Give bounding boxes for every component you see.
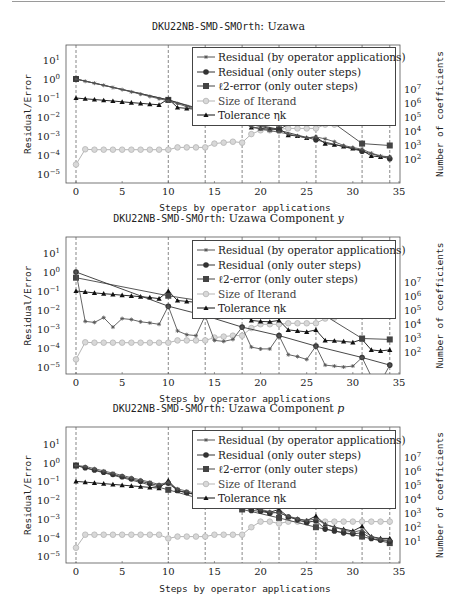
circle-marker [267,519,273,525]
circle-marker [322,526,328,532]
y2-tick-label: 101 [404,535,421,547]
circle-marker [92,532,98,538]
circle-marker [203,452,209,458]
circle-marker [101,532,107,538]
star-marker [204,438,208,442]
circle-marker [230,532,236,538]
star-marker [268,510,272,514]
y2-tick-label: 104 [404,493,422,505]
circle-marker [73,545,79,551]
y2-axis-label: Number of coefficients [434,432,445,558]
legend-label: Size of Iterand [218,478,297,490]
circle-marker [212,532,218,538]
star-marker [148,480,152,484]
legend-symbol-icon [197,435,215,445]
circle-marker [129,532,135,538]
triangle-marker [359,524,364,529]
legend-entry: Tolerance ηk [197,491,391,506]
y-tick-label: 10−5 [37,550,60,562]
y2-tick-label: 102 [404,521,421,533]
chart-3: DKU22NB-SMD-SMOrth: Uzawa Component p051… [0,0,457,600]
x-tick-label: 5 [119,566,125,577]
square-marker [203,466,209,472]
circle-marker [341,519,347,525]
circle-marker [239,532,245,538]
circle-marker [202,534,208,540]
star-marker [369,535,373,539]
x-tick-label: 30 [346,566,359,577]
star-marker [277,511,281,515]
legend-label: Residual (by operator applications) [218,434,406,446]
x-tick-label: 0 [73,566,79,577]
x-axis-label: Steps by operator applications [159,583,331,594]
x-tick-label: 20 [254,566,267,577]
square-marker [165,487,171,493]
legend-label: ℓ2-error (only outer steps) [218,463,358,475]
y2-tick-label: 105 [404,479,421,491]
legend-entry: Size of Iterand [197,477,391,492]
star-marker [92,467,96,471]
legend-entry: Residual (by operator applications) [197,433,391,448]
circle-marker [359,519,365,525]
square-marker [313,524,319,530]
star-marker [157,482,161,486]
circle-marker [184,534,190,540]
y-tick-label: 101 [43,438,60,450]
y-axis-label: Residual/Error [22,455,33,535]
legend-entry: Residual (only outer steps) [197,448,391,463]
y2-tick-label: 107 [404,451,421,463]
circle-marker [82,532,88,538]
y-tick-label: 10−4 [37,532,61,544]
legend-symbol-icon [197,450,215,460]
legend-symbol-icon [197,464,215,474]
circle-marker [147,532,153,538]
y-tick-label: 10−3 [37,513,60,525]
star-marker [111,471,115,475]
circle-marker [221,532,227,538]
circle-marker [203,481,209,487]
legend: Residual (by operator applications)Resid… [192,430,396,509]
y-tick-label: 10−2 [37,494,60,506]
star-marker [166,480,170,484]
circle-marker [193,534,199,540]
x-tick-label: 15 [208,566,221,577]
star-marker [102,469,106,473]
x-tick-label: 35 [393,566,406,577]
circle-marker [332,519,338,525]
y-tick-label: 10−1 [37,475,60,487]
x-tick-label: 25 [300,566,313,577]
plot-svg: 0510152025303510110010−110−210−310−410−5… [0,0,457,600]
star-marker [139,478,143,482]
circle-marker [369,519,375,525]
star-marker [176,487,180,491]
circle-marker [276,521,282,527]
star-marker [129,476,133,480]
circle-marker [378,519,384,525]
circle-marker [387,519,393,525]
circle-marker [258,519,264,525]
circle-marker [175,534,181,540]
circle-marker [350,519,356,525]
circle-marker [156,532,162,538]
legend-entry: ℓ2-error (only outer steps) [197,462,391,477]
star-marker [185,489,189,493]
y2-tick-label: 106 [404,465,422,477]
circle-marker [249,524,255,530]
legend-symbol-icon [197,493,215,503]
x-tick-label: 10 [162,566,175,577]
star-marker [379,537,383,541]
circle-marker [110,532,116,538]
circle-marker [165,536,171,542]
y2-tick-label: 103 [404,507,421,519]
y-tick-label: 100 [43,457,60,469]
circle-marker [138,532,144,538]
square-marker [276,515,282,521]
legend-symbol-icon [197,479,215,489]
star-marker [120,473,124,477]
star-marker [74,464,78,468]
circle-marker [119,532,125,538]
legend-label: Tolerance ηk [218,492,286,504]
star-marker [286,514,290,518]
legend-label: Residual (only outer steps) [218,449,361,461]
